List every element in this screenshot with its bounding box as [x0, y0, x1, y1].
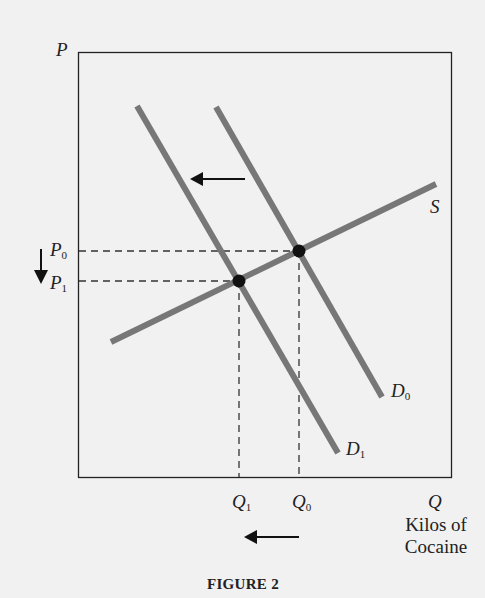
- supply-label: S: [430, 197, 440, 216]
- q0-label: Q0: [292, 492, 311, 513]
- price-down-arrow-icon: [34, 249, 48, 284]
- p0-label: P0: [50, 240, 67, 261]
- quantity-left-arrow-icon: [244, 530, 299, 544]
- demand-shift-arrow-icon: [190, 172, 245, 186]
- p1-label: P1: [50, 273, 67, 294]
- dashed-guides: [79, 251, 299, 477]
- x-axis-label: Q: [428, 492, 442, 511]
- x-axis-description: Kilos of Cocaine: [396, 514, 476, 558]
- d1-label: D1: [346, 439, 365, 460]
- y-axis-label: P: [56, 40, 68, 59]
- equilibrium-point-e0: [293, 245, 306, 258]
- q1-label: Q1: [232, 492, 251, 513]
- equilibrium-point-e1: [233, 275, 246, 288]
- figure-caption: FIGURE 2: [207, 576, 279, 593]
- d0-label: D0: [391, 381, 410, 402]
